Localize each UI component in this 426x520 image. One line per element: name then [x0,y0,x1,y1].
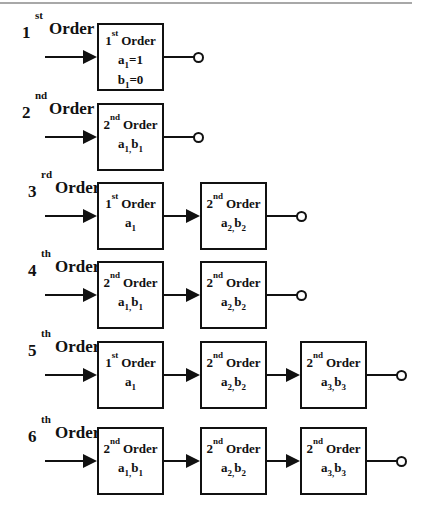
block-order-number: 2 [206,355,213,370]
coef-letter: a [321,460,328,475]
arrow-icon [286,368,300,382]
order-number: 3 [28,182,37,202]
filter-block: 2ndOrdera2,b2 [200,182,267,250]
coef-subscript: 3 [341,468,346,478]
block-order-title: 2ndOrder [99,441,162,457]
output-line [267,294,297,296]
arrow-icon [83,50,97,64]
block-order-word: Order [326,441,361,456]
connector-line [164,215,188,217]
output-line [367,374,397,376]
order-label: 6thOrder [28,413,108,453]
block-coefficients: a1,b1 [99,460,162,476]
order-superscript: rd [41,168,52,180]
order-superscript: th [41,413,51,425]
coef-letter: a [118,136,125,151]
output-line [164,136,194,138]
input-line [45,374,85,376]
block-order-superscript: st [112,191,119,201]
order-word: Order [55,337,100,357]
block-order-superscript: nd [213,350,223,360]
order-word: Order [49,19,94,39]
filter-block: 2ndOrdera3,b3 [300,427,367,495]
coef-subscript: 2 [241,468,246,478]
coef-subscript: 1, [125,144,132,154]
block-order-title: 2ndOrder [202,441,265,457]
filter-block: 2ndOrdera1,b1 [97,261,164,329]
arrow-icon [83,288,97,302]
block-order-number: 1 [105,33,112,48]
coef-letter: a [221,215,228,230]
block-coefficients: a1,b1 [99,136,162,152]
order-number: 6 [28,427,37,447]
block-order-word: Order [123,275,158,290]
order-number: 4 [28,261,37,281]
coef-subscript: 1 [138,468,143,478]
order-label: 3rdOrder [28,168,108,208]
coef-letter: a [118,294,125,309]
input-line [45,56,85,58]
block-order-superscript: nd [213,436,223,446]
input-line [45,460,85,462]
block-order-number: 2 [206,441,213,456]
output-terminal-icon [193,52,204,63]
block-order-title: 1stOrder [99,33,162,49]
block-order-title: 2ndOrder [202,196,265,212]
output-terminal-icon [296,290,307,301]
block-order-number: 2 [306,355,313,370]
block-coefficient-b: b1=0 [99,72,162,88]
arrow-icon [83,368,97,382]
block-order-number: 2 [103,275,110,290]
coef-subscript: 1 [138,302,143,312]
block-order-title: 2ndOrder [202,355,265,371]
block-coefficients: a2,b2 [202,294,265,310]
block-order-number: 1 [105,355,112,370]
order-label: 4thOrder [28,247,108,287]
coef-letter: a [221,374,228,389]
output-line [164,56,194,58]
order-number: 2 [22,103,31,123]
block-order-number: 2 [306,441,313,456]
block-order-superscript: nd [213,191,223,201]
coef-subscript: 1 [138,144,143,154]
filter-block: 1stOrdera1 [97,182,164,250]
block-coefficients: a1,b1 [99,294,162,310]
block-coefficient-a: a1=1 [99,52,162,68]
block-order-title: 2ndOrder [302,441,365,457]
connector-line [164,294,188,296]
block-order-superscript: nd [110,112,120,122]
order-word: Order [55,423,100,443]
block-order-title: 1stOrder [99,196,162,212]
coef-letter: a [118,460,125,475]
block-order-superscript: nd [213,270,223,280]
order-word: Order [49,99,94,119]
arrow-icon [186,454,200,468]
block-order-superscript: nd [313,350,323,360]
block-coefficients: a1 [99,215,162,231]
coef-letter: b [118,72,125,87]
arrow-icon [83,454,97,468]
order-label: 2ndOrder [22,89,102,129]
block-coefficients: a1 [99,374,162,390]
coef-letter: a [118,52,125,67]
arrow-icon [286,454,300,468]
output-terminal-icon [396,456,407,467]
block-order-word: Order [226,355,261,370]
arrow-icon [186,368,200,382]
order-word: Order [55,178,100,198]
coef-subscript: 1 [132,382,137,392]
filter-block: 2ndOrdera2,b2 [200,427,267,495]
order-superscript: nd [35,89,47,101]
input-line [45,215,85,217]
top-rule [0,2,412,4]
block-order-word: Order [123,441,158,456]
arrow-icon [186,209,200,223]
filter-block: 2ndOrdera2,b2 [200,341,267,409]
coef-value: =1 [129,52,143,67]
block-coefficients: a3,b3 [302,460,365,476]
output-line [267,215,297,217]
order-label: 1stOrder [22,9,102,49]
block-order-title: 1stOrder [99,355,162,371]
block-order-number: 2 [206,196,213,211]
order-number: 1 [22,23,31,43]
